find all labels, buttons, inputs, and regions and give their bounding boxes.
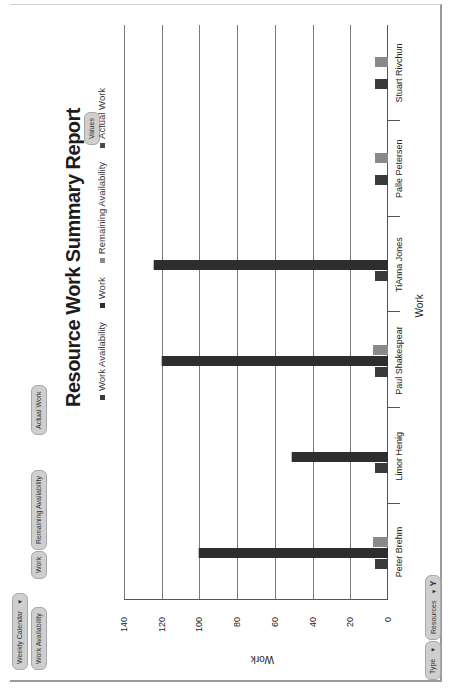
gridline <box>275 25 276 600</box>
bar-work-availability[interactable] <box>375 367 388 377</box>
type-filter-dropdown[interactable]: Type▼ <box>425 641 441 680</box>
y-tick-label: 140 <box>119 617 129 637</box>
legend-swatch-icon <box>100 258 105 263</box>
x-category-label: Limor Henig <box>394 401 404 511</box>
view-dropdown[interactable]: Weekly Calendar▼ <box>12 593 28 670</box>
gridline <box>350 25 351 600</box>
legend-label: Remaining Availability <box>96 162 107 254</box>
y-tick-label: 20 <box>345 617 355 637</box>
gridline <box>199 25 200 600</box>
legend-label: Work Availability <box>96 322 107 391</box>
y-axis-line <box>124 599 388 600</box>
resources-filter-label: Resources <box>430 601 437 634</box>
legend-label: Actual Work <box>96 88 107 139</box>
y-tick-label: 120 <box>157 617 167 637</box>
legend-item-work: Work <box>96 277 107 308</box>
legend-item-remaining-availability: Remaining Availability <box>96 162 107 263</box>
filter-icon: Y <box>428 581 438 587</box>
bar-remaining-availability[interactable] <box>375 57 388 67</box>
bar-work[interactable] <box>162 356 388 366</box>
gridline <box>162 25 163 600</box>
bar-work-availability[interactable] <box>375 559 388 569</box>
bar-work[interactable] <box>292 452 388 462</box>
x-category-label: Stuart Rivchun <box>394 18 404 128</box>
bar-work-availability[interactable] <box>375 463 388 473</box>
bar-remaining-availability[interactable] <box>373 345 388 355</box>
y-tick-label: 40 <box>308 617 318 637</box>
legend-swatch-icon <box>100 303 105 308</box>
bar-work-availability[interactable] <box>375 175 388 185</box>
chart-legend: Work AvailabilityWorkRemaining Availabil… <box>96 74 107 400</box>
legend-swatch-icon <box>100 143 105 148</box>
bar-work[interactable] <box>199 548 388 558</box>
x-axis-line <box>387 25 388 600</box>
bar-work-availability[interactable] <box>375 271 388 281</box>
field-button-work-availability[interactable]: Work Availability <box>31 607 47 670</box>
bar-work-availability[interactable] <box>375 79 388 89</box>
gridline <box>313 25 314 600</box>
field-button-remaining-availability[interactable]: Remaining Availability <box>31 470 47 550</box>
resources-filter-dropdown[interactable]: Resources▼Y <box>425 575 441 640</box>
legend-item-work-availability: Work Availability <box>96 322 107 400</box>
rotated-chart-canvas: Weekly Calendar▼ Work AvailabilityWorkRe… <box>0 0 462 690</box>
type-filter-label: Type <box>429 659 436 674</box>
x-category-label: Palle Petersen <box>394 114 404 224</box>
y-tick-label: 80 <box>232 617 242 637</box>
chevron-down-icon: ▼ <box>431 589 437 595</box>
bar-remaining-availability[interactable] <box>373 537 388 547</box>
field-button-work[interactable]: Work <box>31 551 47 579</box>
chevron-down-icon: ▼ <box>17 599 23 605</box>
x-category-label: Paul Shakespear <box>394 305 404 415</box>
legend-swatch-icon <box>100 395 105 400</box>
x-category-label: TiAnna Jones <box>394 210 404 320</box>
y-axis-title: Work <box>251 654 274 665</box>
y-tick-label: 100 <box>194 617 204 637</box>
y-tick-label: 60 <box>270 617 280 637</box>
gridline <box>124 25 125 600</box>
chart-title: Resource Work Summary Report <box>62 0 85 690</box>
bar-remaining-availability[interactable] <box>375 153 388 163</box>
x-category-label: Peter Brehm <box>394 497 404 607</box>
view-dropdown-label: Weekly Calendar <box>16 611 23 664</box>
chevron-down-icon: ▼ <box>430 647 436 653</box>
y-tick-label: 0 <box>383 617 393 637</box>
legend-item-actual-work: Actual Work <box>96 88 107 148</box>
legend-label: Work <box>96 277 107 299</box>
x-axis-title: Work <box>414 294 425 317</box>
plot-area: Work 020406080100120140Peter BrehmLimor … <box>124 25 388 665</box>
gridline <box>237 25 238 600</box>
bar-work[interactable] <box>154 260 388 270</box>
field-button-actual-work[interactable]: Actual Work <box>31 385 47 435</box>
